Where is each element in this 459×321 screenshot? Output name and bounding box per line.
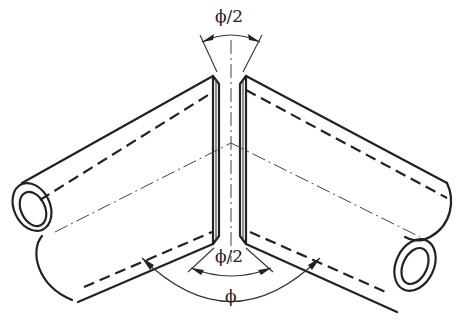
left-pipe	[5, 76, 231, 302]
right-pipe	[231, 76, 451, 312]
bottom-outer-angle-label: ϕ	[225, 286, 237, 306]
bottom-inner-angle-label: ϕ/2	[215, 246, 243, 266]
arrowhead-icon	[202, 34, 214, 42]
top-angle-label: ϕ/2	[215, 6, 243, 26]
diagram-drawing	[0, 0, 459, 321]
arrowhead-icon	[258, 268, 271, 275]
pipe-miter-diagram: ϕ/2 ϕ/2 ϕ	[0, 0, 459, 321]
arrowhead-icon	[191, 268, 204, 275]
